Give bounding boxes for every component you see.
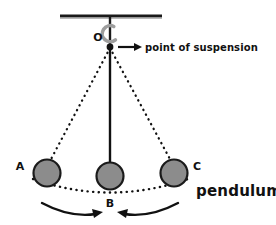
bob-b: [97, 163, 124, 190]
pendulum-diagram: O point of suspension A B C pendulum: [0, 0, 276, 225]
point-of-suspension-dot: [107, 44, 114, 51]
swing-arrow-left: [42, 203, 103, 218]
bob-a-label: A: [16, 160, 25, 173]
bob-b-label: B: [106, 197, 114, 210]
string-to-bob-a: [50, 48, 110, 161]
diagram-title: pendulum: [196, 182, 276, 200]
bob-c: [161, 160, 188, 187]
bob-a: [34, 160, 61, 187]
bob-c-label: C: [193, 160, 201, 173]
pendulum-illustration: O point of suspension A B C pendulum: [0, 0, 276, 225]
pivot-label: O: [93, 31, 102, 44]
point-of-suspension-arrow: [118, 43, 142, 51]
point-of-suspension-label: point of suspension: [145, 42, 258, 53]
swing-arrow-right: [117, 203, 178, 218]
string-to-bob-c: [110, 48, 171, 161]
